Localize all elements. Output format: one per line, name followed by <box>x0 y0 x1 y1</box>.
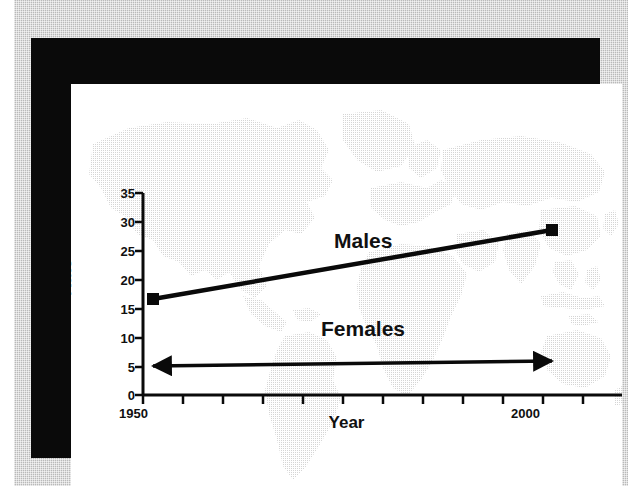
series-females <box>153 361 552 366</box>
y-axis-title: Rate <box>71 259 74 296</box>
y-tick-25: 25 <box>121 245 135 258</box>
y-tick-30: 30 <box>121 216 135 229</box>
y-tick-10: 10 <box>121 332 135 345</box>
y-tick-15: 15 <box>121 303 135 316</box>
series-label-females: Females <box>321 318 405 339</box>
figure-black-frame: 35 30 25 20 15 10 5 0 Males Females 1950… <box>31 38 600 458</box>
chart-canvas: 35 30 25 20 15 10 5 0 Males Females 1950… <box>71 84 622 487</box>
x-axis-title: Year <box>71 414 622 431</box>
figure-page: 35 30 25 20 15 10 5 0 Males Females 1950… <box>0 0 642 492</box>
y-tick-20: 20 <box>121 274 135 287</box>
series-label-males: Males <box>334 230 392 251</box>
y-tick-5: 5 <box>128 361 135 374</box>
y-tick-35: 35 <box>121 187 135 200</box>
y-tick-0: 0 <box>128 389 135 402</box>
